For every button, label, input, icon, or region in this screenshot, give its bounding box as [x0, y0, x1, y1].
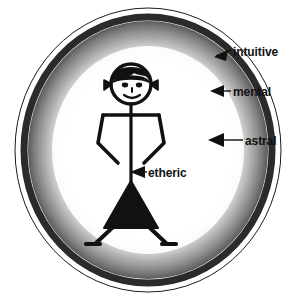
label-astral: astral: [245, 134, 276, 148]
figure-eye-right: [136, 83, 142, 88]
label-etheric: etheric: [148, 166, 187, 180]
label-mental: mental: [233, 85, 271, 99]
aura-diagram: intuitive mental astral etheric: [0, 0, 296, 298]
figure-eye-left: [122, 83, 128, 88]
label-intuitive: intuitive: [233, 45, 278, 59]
